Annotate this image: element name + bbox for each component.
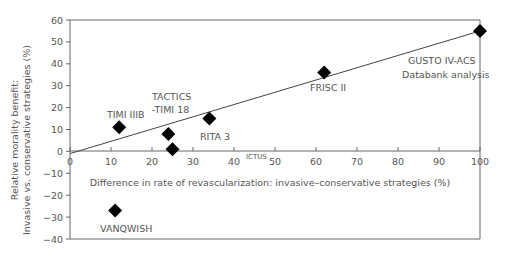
x-ticks: 0102030405060708090100 [67, 147, 489, 167]
label-tactics-2: -TIMI 18 [152, 104, 189, 115]
label-timi-iiib: TIMI IIIB [106, 109, 145, 120]
svg-text:50: 50 [269, 156, 281, 167]
y-ticks: 6050403020100−10−20−30−40 [43, 15, 70, 245]
svg-text:10: 10 [105, 156, 117, 167]
diamond-marker [166, 142, 180, 156]
y-axis-label-1: Relative morality benefit: [9, 80, 20, 200]
svg-text:20: 20 [146, 156, 158, 167]
diamond-marker [317, 66, 331, 80]
svg-text:30: 30 [51, 80, 63, 91]
scatter-chart: 6050403020100−10−20−30−40 01020304050607… [0, 0, 508, 257]
y-axis-label-2: Invasive vs. conservative strategies (%) [21, 45, 32, 235]
data-points [108, 24, 487, 218]
svg-text:−10: −10 [43, 168, 63, 179]
svg-text:40: 40 [51, 58, 63, 69]
svg-text:−30: −30 [43, 212, 63, 223]
plot-frame [70, 20, 480, 239]
svg-text:100: 100 [471, 156, 489, 167]
x-axis-label: Difference in rate of revascularization:… [90, 177, 450, 188]
label-gusto: GUSTO IV-ACS [408, 55, 476, 66]
diamond-marker [473, 24, 487, 38]
label-tactics: TACTICS [151, 91, 191, 102]
svg-text:80: 80 [392, 156, 404, 167]
svg-text:20: 20 [51, 102, 63, 113]
svg-text:−40: −40 [43, 234, 63, 245]
svg-text:60: 60 [51, 15, 63, 26]
svg-text:90: 90 [433, 156, 445, 167]
label-vanqwish: VANQWISH [100, 223, 152, 234]
svg-text:10: 10 [51, 124, 63, 135]
svg-text:0: 0 [57, 146, 63, 157]
svg-text:40: 40 [228, 156, 240, 167]
svg-text:−20: −20 [43, 190, 63, 201]
label-gusto-2: Databank analysis [402, 69, 490, 80]
svg-text:60: 60 [310, 156, 322, 167]
svg-text:0: 0 [67, 156, 73, 167]
label-ictus: ICTUS [246, 153, 267, 161]
diamond-marker [108, 204, 122, 218]
svg-text:70: 70 [351, 156, 363, 167]
diamond-marker [112, 120, 126, 134]
diamond-marker [161, 127, 175, 141]
trend-line [70, 31, 480, 154]
label-frisc-ii: FRISC II [310, 82, 346, 93]
label-rita-3: RITA 3 [200, 131, 230, 142]
svg-text:50: 50 [51, 36, 63, 47]
svg-text:30: 30 [187, 156, 199, 167]
